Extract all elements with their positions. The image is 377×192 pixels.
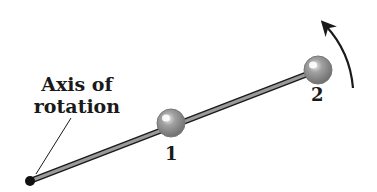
mass-2-ball bbox=[304, 56, 332, 84]
mass-2-label: 2 bbox=[311, 86, 324, 104]
axis-label-line-1: Axis of bbox=[32, 73, 122, 95]
pivot-axis-point bbox=[25, 176, 35, 186]
axis-of-rotation-label: Axis of rotation bbox=[32, 73, 122, 117]
mass-1-label: 1 bbox=[165, 145, 178, 163]
mass-1-ball bbox=[157, 109, 185, 137]
rotation-direction-arrow-icon bbox=[326, 26, 353, 88]
axis-label-line-2: rotation bbox=[32, 95, 122, 117]
